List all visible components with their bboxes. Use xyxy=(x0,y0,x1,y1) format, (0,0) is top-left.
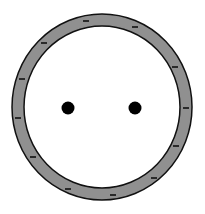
left-point-charge xyxy=(62,102,75,115)
right-point-charge xyxy=(129,102,142,115)
charged-shell-diagram xyxy=(0,0,205,214)
point-charges xyxy=(62,102,142,115)
charged-shell xyxy=(12,14,192,200)
shell-ring xyxy=(12,14,192,200)
